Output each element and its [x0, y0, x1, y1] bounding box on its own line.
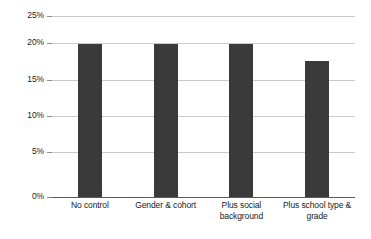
x-label-plus-school-type-grade: Plus school type & grade: [279, 200, 355, 221]
x-axis-line: [52, 197, 355, 198]
y-tick-label: 0%: [0, 192, 44, 201]
bar-plus-social-background[interactable]: [229, 44, 253, 198]
bar-slot: [204, 16, 280, 197]
y-tick-label: 20%: [0, 38, 44, 47]
x-label-plus-social-background: Plus social background: [204, 200, 280, 221]
bar-gender-cohort[interactable]: [154, 44, 178, 198]
bar-slot: [279, 16, 355, 197]
x-axis-labels: No control Gender & cohort Plus social b…: [52, 200, 355, 234]
bar-slot: [52, 16, 128, 197]
bar-plus-school-type-grade[interactable]: [305, 61, 329, 197]
y-tick-label: 5%: [0, 147, 44, 156]
y-tick-label: 25%: [0, 11, 44, 20]
y-tick-label: 10%: [0, 111, 44, 120]
bar-no-control[interactable]: [78, 44, 102, 198]
x-label-gender-cohort: Gender & cohort: [128, 200, 204, 211]
bar-chart: 25% 20% 15% 10% 5% 0%: [0, 0, 371, 239]
plot-area: [52, 16, 355, 197]
x-label-no-control: No control: [52, 200, 128, 211]
y-tick-label: 15%: [0, 75, 44, 84]
bar-slot: [128, 16, 204, 197]
bar-series: [52, 16, 355, 197]
